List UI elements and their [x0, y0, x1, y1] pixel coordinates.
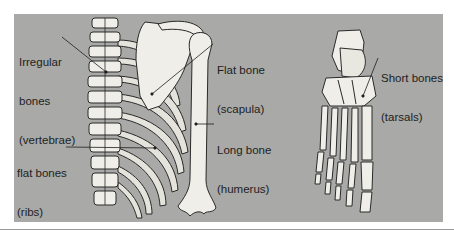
- leader-flat-ribs: [66, 147, 155, 148]
- scapula-icon: [136, 22, 198, 110]
- label-short-bones-tarsals: Short bones (tarsals): [381, 46, 443, 137]
- thorax-figure: [88, 18, 216, 218]
- label-line: (scapula): [217, 103, 265, 116]
- label-line: flat bones: [17, 167, 67, 180]
- label-line: Long bone: [217, 144, 271, 157]
- label-line: Irregular: [19, 56, 75, 69]
- label-line: (humerus): [217, 183, 271, 196]
- label-line: Short bones: [381, 72, 443, 85]
- label-line: (ribs): [17, 206, 67, 219]
- label-line: (tarsals): [381, 111, 443, 124]
- label-line: Flat bone: [217, 64, 265, 77]
- foot-figure: [315, 30, 376, 212]
- vertebrae-icon: [88, 18, 122, 205]
- label-line: bones: [19, 95, 75, 108]
- bottom-divider: [0, 229, 454, 230]
- label-long-bone-humerus: Long bone (humerus): [217, 118, 271, 209]
- label-flat-bones-ribs: flat bones (ribs): [17, 141, 67, 232]
- label-flat-bone-scapula: Flat bone (scapula): [217, 38, 265, 129]
